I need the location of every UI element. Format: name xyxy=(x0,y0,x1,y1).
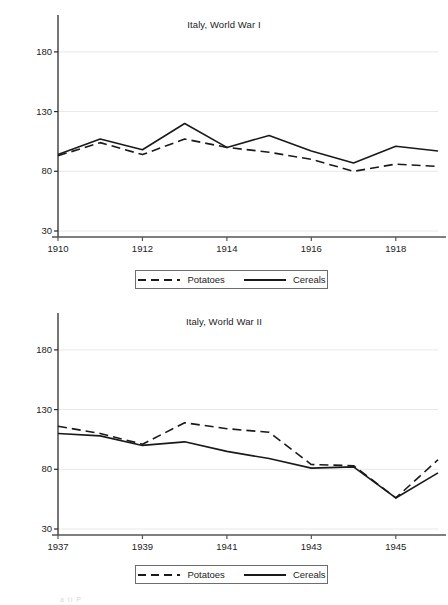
x-axis-label-1945: 1945 xyxy=(374,541,418,552)
y-axis-label-80: 80 xyxy=(20,165,52,176)
legend-entry-potatoes: Potatoes xyxy=(128,274,234,285)
x-axis-label-1916: 1916 xyxy=(289,243,333,254)
plot-area-world-war-1 xyxy=(58,28,438,231)
legend-label-cereals: Cereals xyxy=(293,274,326,285)
series-line-cereals xyxy=(58,124,438,163)
y-axis-label-130: 130 xyxy=(20,106,52,117)
x-axis-label-1918: 1918 xyxy=(374,243,418,254)
y-axis-label-30: 30 xyxy=(20,523,52,534)
dashed-line-icon xyxy=(137,571,181,579)
x-axis-label-1939: 1939 xyxy=(120,541,164,552)
y-axis-label-180: 180 xyxy=(20,344,52,355)
chart-canvas xyxy=(58,28,438,231)
legend-world-war-1: Potatoes Cereals xyxy=(135,270,328,289)
series-line-potatoes xyxy=(58,139,438,171)
legend-label-potatoes: Potatoes xyxy=(187,274,225,285)
chart-canvas xyxy=(58,326,438,529)
dashed-line-icon xyxy=(137,276,181,284)
legend-label-cereals: Cereals xyxy=(293,569,326,580)
page-edge-artifact: a ti P xyxy=(60,596,82,603)
x-axis-label-1912: 1912 xyxy=(120,243,164,254)
x-axis-label-1941: 1941 xyxy=(205,541,249,552)
solid-line-icon xyxy=(243,571,287,579)
series-line-cereals xyxy=(58,433,438,497)
chart-panel-world-war-2: Italy, World War II Potatoes Cereals 308… xyxy=(0,300,448,595)
x-axis-label-1937: 1937 xyxy=(36,541,80,552)
y-axis-label-180: 180 xyxy=(20,46,52,57)
chart-panel-world-war-1: Italy, World War I Potatoes Cereals 3080… xyxy=(0,0,448,300)
y-axis-label-130: 130 xyxy=(20,404,52,415)
legend-label-potatoes: Potatoes xyxy=(187,569,225,580)
legend-world-war-2: Potatoes Cereals xyxy=(135,565,328,584)
legend-entry-cereals: Cereals xyxy=(234,569,335,580)
solid-line-icon xyxy=(243,276,287,284)
x-axis-label-1943: 1943 xyxy=(289,541,333,552)
x-axis-label-1910: 1910 xyxy=(36,243,80,254)
legend-entry-cereals: Cereals xyxy=(234,274,335,285)
plot-area-world-war-2 xyxy=(58,326,438,529)
y-axis-label-80: 80 xyxy=(20,463,52,474)
x-axis-label-1914: 1914 xyxy=(205,243,249,254)
y-axis-label-30: 30 xyxy=(20,225,52,236)
legend-entry-potatoes: Potatoes xyxy=(128,569,234,580)
figure-page: Italy, World War I Potatoes Cereals 3080… xyxy=(0,0,448,605)
